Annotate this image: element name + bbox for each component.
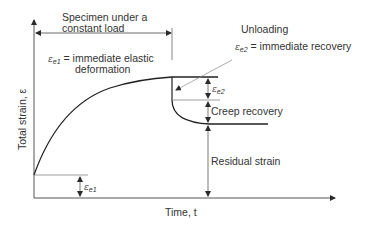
e2-dimension-label: εe2 (212, 83, 225, 97)
load-period-label-line2: constant load (62, 23, 124, 34)
unloading-label: Unloading (241, 24, 288, 35)
creep-recovery-label: Creep recovery (211, 106, 283, 117)
e2-definition: εe2 = immediate recovery (235, 41, 351, 55)
residual-strain-label: Residual strain (211, 156, 280, 167)
e1-dimension-label: εe1 (84, 181, 97, 195)
e1-dim-subscript: e1 (89, 186, 97, 193)
y-axis-label: Total strain, ε (16, 89, 28, 150)
x-axis-label: Time, t (165, 207, 197, 218)
creep-diagram (0, 0, 372, 226)
e2-definition-text: = immediate recovery (251, 40, 352, 52)
creep-curve (34, 77, 218, 175)
e2-subscript: e2 (240, 46, 248, 53)
e1-definition-line2: deformation (75, 64, 130, 75)
e1-subscript: e1 (53, 58, 61, 65)
e2-dim-subscript: e2 (217, 88, 225, 95)
